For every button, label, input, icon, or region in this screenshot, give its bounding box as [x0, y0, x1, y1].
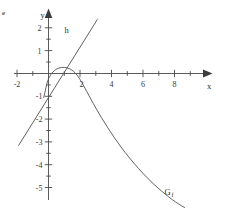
svg-text:G: G	[165, 187, 171, 197]
x-axis-tick-labels: -2 2 4 6 8	[14, 80, 177, 89]
x-tick-label: 6	[141, 80, 145, 89]
curve-gf	[44, 67, 185, 207]
y-axis-label: y	[40, 10, 45, 20]
corner-mark: e	[2, 2, 5, 18]
y-tick-label: -3	[36, 138, 43, 147]
x-axis-arrow-icon	[203, 70, 213, 78]
y-tick-label: -4	[36, 161, 43, 170]
curve-gf-label: G f	[165, 187, 174, 199]
y-tick-label: 2	[38, 24, 42, 33]
y-axis-arrow-icon	[45, 9, 53, 19]
y-axis	[45, 9, 53, 201]
y-tick-label: 1	[38, 47, 42, 56]
function-graph-plot: -2 2 4 6 8 2 1 -1 -2 -3 -4 -5 x y h G f	[0, 0, 228, 209]
curve-h-label: h	[64, 25, 69, 35]
curve-h	[19, 20, 98, 146]
x-tick-label: 2	[80, 80, 84, 89]
x-tick-label: 4	[110, 80, 114, 89]
x-axis-label: x	[207, 81, 212, 91]
y-tick-label: -2	[36, 115, 43, 124]
y-tick-label: -1	[36, 92, 43, 101]
figure-root: -2 2 4 6 8 2 1 -1 -2 -3 -4 -5 x y h G f …	[0, 0, 228, 209]
x-tick-label: 8	[173, 80, 177, 89]
curve-gf-label-subscript: f	[172, 192, 174, 198]
x-axis	[14, 70, 213, 78]
x-tick-label: -2	[14, 80, 21, 89]
y-tick-label: -5	[36, 184, 43, 193]
